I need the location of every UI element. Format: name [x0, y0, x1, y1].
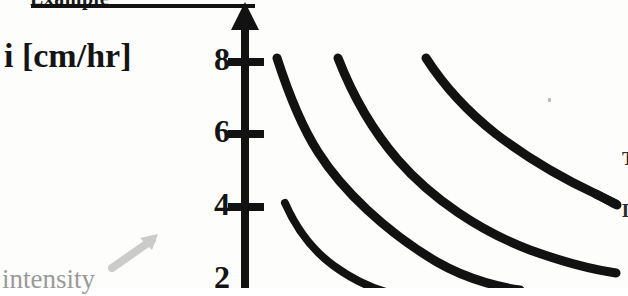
annotation-label: intensity	[2, 264, 95, 295]
edge-fragment-bottom: D	[622, 200, 628, 222]
annotation-arrow-icon	[112, 234, 158, 268]
curve-2	[338, 58, 616, 273]
curve-3-tail	[596, 194, 617, 205]
curve-3	[426, 58, 616, 204]
edge-fragment-top: T	[622, 148, 628, 170]
axis-arrow-up-icon	[231, 2, 259, 30]
curve-1	[277, 58, 520, 288]
scan-speck	[548, 98, 551, 102]
